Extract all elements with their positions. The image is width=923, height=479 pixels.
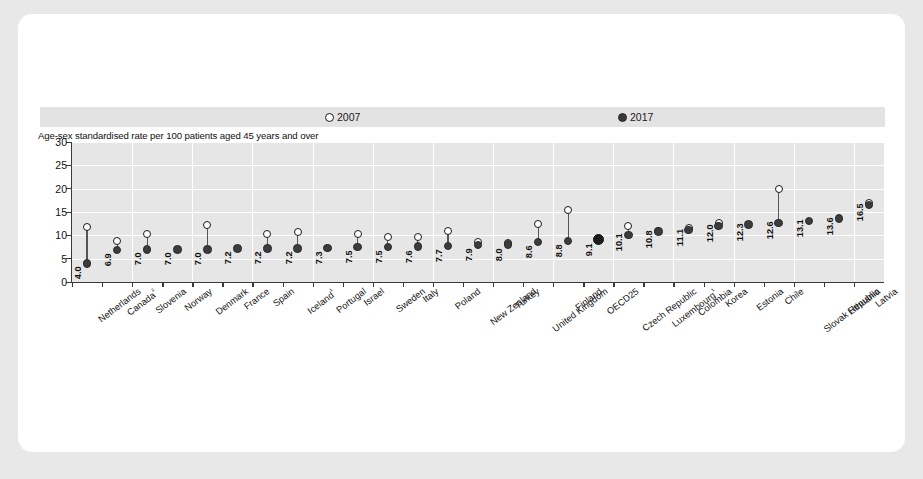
legend-item-2017: 2017: [618, 109, 653, 125]
data-value-label: 7.0: [194, 253, 203, 266]
data-value-label: 11.1: [675, 229, 684, 246]
legend-item-2007: 2007: [325, 109, 360, 125]
plot-wrapper: 4.06.97.07.07.07.27.27.27.37.57.57.67.77…: [38, 142, 885, 294]
x-axis-category-label: Turkey: [514, 287, 542, 311]
data-point-2017: [534, 238, 543, 247]
data-point-2017: [384, 243, 393, 252]
data-point-2007: [354, 230, 362, 238]
x-axis-category-label: Iceland¹: [304, 287, 337, 316]
data-point-2007: [294, 228, 302, 236]
y-axis-label: 15: [41, 207, 67, 218]
data-value-label: 13.6: [826, 217, 835, 235]
data-value-label: 7.2: [224, 252, 233, 265]
data-point-2017: [654, 227, 663, 236]
data-value-label: 7.5: [345, 250, 354, 263]
data-point-2017: [203, 245, 212, 254]
data-value-label: 12.3: [735, 223, 744, 241]
y-axis-label: 30: [41, 137, 67, 148]
x-axis-category-label: Sweden: [395, 287, 427, 315]
data-point-2017: [263, 244, 272, 253]
data-point-2007: [113, 237, 121, 245]
x-axis-category-label: Israel: [362, 287, 386, 308]
data-point-2017: [624, 231, 633, 240]
gridline-horizontal: [72, 235, 884, 236]
gridline-vertical: [613, 142, 614, 282]
data-point-2017: [805, 217, 814, 226]
gridline-horizontal: [72, 212, 884, 213]
gridline-vertical: [794, 142, 795, 282]
data-point-2017: [684, 226, 693, 235]
data-value-label: 4.0: [74, 267, 83, 280]
data-point-2017: [444, 242, 453, 251]
data-value-label: 8.6: [525, 245, 534, 258]
plot-area: 4.06.97.07.07.07.27.27.27.37.57.57.67.77…: [72, 142, 884, 282]
data-point-2007: [775, 185, 783, 193]
filled-circle-icon: [618, 113, 627, 122]
data-point-2017: [414, 242, 423, 251]
data-point-2017: [474, 241, 483, 250]
gridline-horizontal: [72, 189, 884, 190]
gridline-vertical: [673, 142, 674, 282]
data-point-2017: [293, 244, 302, 253]
connector-line: [86, 227, 87, 263]
data-value-label: 12.6: [766, 222, 775, 240]
data-point-2017: [113, 246, 122, 255]
data-value-label: 7.2: [254, 252, 263, 265]
y-axis-label: 25: [41, 160, 67, 171]
y-axis-label: 0: [41, 277, 67, 288]
data-value-label: 7.5: [375, 250, 384, 263]
data-value-label: 9.1: [585, 243, 594, 256]
data-value-label: 8.8: [555, 244, 564, 257]
data-point-2007: [384, 233, 392, 241]
gridline-horizontal: [72, 165, 884, 166]
open-circle-icon: [325, 113, 334, 122]
data-point-2017: [774, 219, 783, 228]
x-axis-category-label: Slovenia: [154, 287, 188, 316]
data-point-2007: [534, 220, 542, 228]
data-value-label: 7.0: [134, 253, 143, 266]
legend-label-2007: 2007: [337, 111, 360, 123]
gridline-vertical: [553, 142, 554, 282]
data-point-2007: [143, 230, 151, 238]
gridline-vertical: [734, 142, 735, 282]
legend-label-2017: 2017: [630, 111, 653, 123]
data-value-label: 12.0: [705, 224, 714, 242]
y-axis-label: 10: [41, 230, 67, 241]
x-axis-category-label: Norway: [184, 287, 215, 313]
x-axis-category-label: Estonia: [755, 287, 785, 313]
x-axis-category-label: Chile: [783, 287, 806, 307]
data-point-2007: [263, 230, 271, 238]
data-value-label: 10.1: [615, 233, 624, 251]
data-value-label: 10.8: [645, 230, 654, 248]
data-value-label: 7.9: [465, 249, 474, 262]
data-point-2007: [414, 233, 422, 241]
data-value-label: 13.1: [796, 219, 805, 237]
data-point-2007: [444, 227, 452, 235]
data-point-2017: [714, 222, 723, 231]
page-frame: 2007 2017 Age-sex standardised rate per …: [0, 0, 923, 479]
chart-legend: 2007 2017: [40, 107, 885, 127]
y-axis-line: [71, 142, 72, 282]
data-point-2017: [143, 245, 152, 254]
x-axis-category-labels: NetherlandsCanada²SloveniaNorwayDenmarkF…: [72, 287, 902, 387]
data-point-2017: [83, 259, 92, 268]
axis-subtitle: Age-sex standardised rate per 100 patien…: [38, 130, 318, 141]
page-sheet: 2007 2017 Age-sex standardised rate per …: [18, 14, 905, 452]
data-point-2007: [83, 223, 91, 231]
x-axis-category-label: OECD25: [606, 287, 641, 317]
data-point-2017: [353, 243, 362, 252]
data-value-label: 7.7: [435, 249, 444, 262]
data-point-2017: [835, 214, 844, 223]
data-value-label: 7.2: [284, 252, 293, 265]
data-point-2017: [233, 244, 242, 253]
data-point-2017: [504, 240, 513, 249]
x-axis-category-label: Spain: [272, 287, 297, 309]
data-value-label: 16.5: [856, 203, 865, 221]
data-point-2017: [865, 201, 874, 210]
data-point-2007: [624, 222, 632, 230]
data-value-label: 7.0: [164, 253, 173, 266]
data-point-2017: [744, 220, 753, 229]
data-point-2017: [323, 244, 332, 253]
x-axis-category-label: Poland: [454, 287, 483, 312]
y-axis-label: 20: [41, 184, 67, 195]
